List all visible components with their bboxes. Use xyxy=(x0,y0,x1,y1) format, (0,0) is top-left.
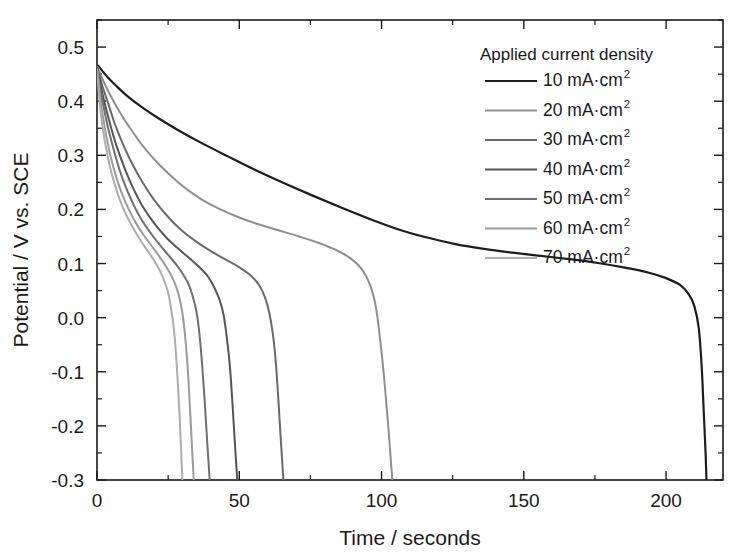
y-tick-label: -0.3 xyxy=(51,470,84,491)
y-tick-label: 0.2 xyxy=(58,199,84,220)
chart-figure: 050100150200-0.3-0.2-0.10.00.10.20.30.40… xyxy=(0,0,740,560)
y-tick-label: -0.2 xyxy=(51,416,84,437)
data-curves xyxy=(97,65,707,480)
y-tick-label: 0.1 xyxy=(58,254,84,275)
legend-item-exponent: 2 xyxy=(624,245,630,257)
legend-item-exponent: 2 xyxy=(624,98,630,110)
curve-40-ma xyxy=(97,68,237,480)
legend-item-label: 70 mA·cm xyxy=(543,247,623,267)
curve-10-ma xyxy=(97,65,707,480)
curve-50-ma xyxy=(97,68,210,480)
potential-vs-time-chart: 050100150200-0.3-0.2-0.10.00.10.20.30.40… xyxy=(0,0,740,560)
x-axis-title: Time / seconds xyxy=(339,526,481,549)
y-tick-label: 0.3 xyxy=(58,145,84,166)
y-tick-label: 0.0 xyxy=(58,308,84,329)
legend-item-exponent: 2 xyxy=(624,127,630,139)
chart-legend: Applied current density10 mA·cm220 mA·cm… xyxy=(480,45,653,267)
legend-item-exponent: 2 xyxy=(624,68,630,80)
x-tick-label: 50 xyxy=(229,490,250,511)
legend-title: Applied current density xyxy=(480,45,653,64)
y-tick-label: 0.5 xyxy=(58,37,84,58)
x-tick-label: 100 xyxy=(366,490,398,511)
legend-item-label: 60 mA·cm xyxy=(543,218,623,238)
legend-item-label: 40 mA·cm xyxy=(543,159,623,179)
y-tick-label: -0.1 xyxy=(51,362,84,383)
x-tick-label: 0 xyxy=(92,490,103,511)
legend-item-exponent: 2 xyxy=(624,216,630,228)
legend-item-label: 10 mA·cm xyxy=(543,70,623,90)
legend-item-label: 30 mA·cm xyxy=(543,129,623,149)
x-tick-label: 200 xyxy=(650,490,682,511)
legend-item-label: 50 mA·cm xyxy=(543,188,623,208)
legend-item-exponent: 2 xyxy=(624,186,630,198)
y-tick-label: 0.4 xyxy=(58,91,85,112)
legend-item-exponent: 2 xyxy=(624,157,630,169)
legend-item-label: 20 mA·cm xyxy=(543,100,623,120)
y-axis-title: Potential / V vs. SCE xyxy=(9,153,32,348)
curve-20-ma xyxy=(97,66,392,480)
x-tick-label: 150 xyxy=(508,490,540,511)
